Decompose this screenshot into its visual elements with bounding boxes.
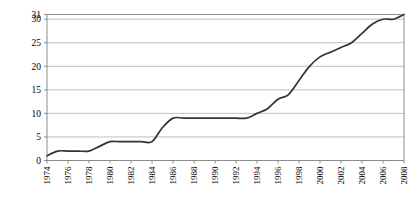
y-axis-tick-label: 0 (36, 156, 41, 166)
x-axis-tick-label: 1996 (273, 166, 283, 185)
x-axis-tick-label: 1982 (126, 167, 136, 185)
x-axis-tick-label: 2008 (399, 166, 409, 185)
plot-background (0, 0, 415, 200)
x-axis-tick-label: 1974 (42, 166, 52, 185)
x-axis-tick-label: 1992 (231, 167, 241, 185)
x-axis-tick-label: 2006 (378, 166, 388, 185)
x-axis-tick-label: 1978 (84, 166, 94, 185)
y-axis-tick-label: 25 (32, 38, 42, 48)
x-axis-tick-label: 2000 (315, 166, 325, 185)
y-axis-tick-label: 10 (32, 109, 42, 119)
y-axis-tick-label: 31 (32, 10, 42, 20)
x-axis-tick-label: 1984 (147, 166, 157, 185)
y-axis-tick-label: 5 (36, 132, 41, 142)
chart-figure: Number of jurisdictions 05101520253031 1… (0, 0, 415, 200)
x-axis-tick-label: 1976 (63, 166, 73, 185)
x-axis-tick-label: 1980 (105, 166, 115, 185)
x-axis-tick-label: 1986 (168, 166, 178, 185)
x-axis-tick-label: 1988 (189, 166, 199, 185)
y-axis-tick-label: 15 (32, 85, 42, 95)
y-axis-tick-label: 20 (32, 62, 42, 72)
x-axis-tick-label: 1998 (294, 166, 304, 185)
line-chart-plot: 05101520253031 1974197619781980198219841… (0, 0, 415, 200)
x-axis-tick-label: 2002 (336, 167, 346, 185)
x-axis-tick-label: 1994 (252, 166, 262, 185)
x-axis-tick-label: 1990 (210, 166, 220, 185)
x-axis-tick-label: 2004 (357, 166, 367, 185)
